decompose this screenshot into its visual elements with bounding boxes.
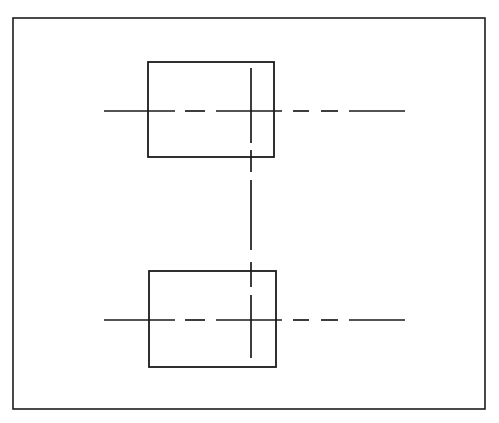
drawing-canvas: [0, 0, 499, 423]
sheet-background: [0, 0, 499, 423]
engineering-drawing-svg: [0, 0, 499, 423]
